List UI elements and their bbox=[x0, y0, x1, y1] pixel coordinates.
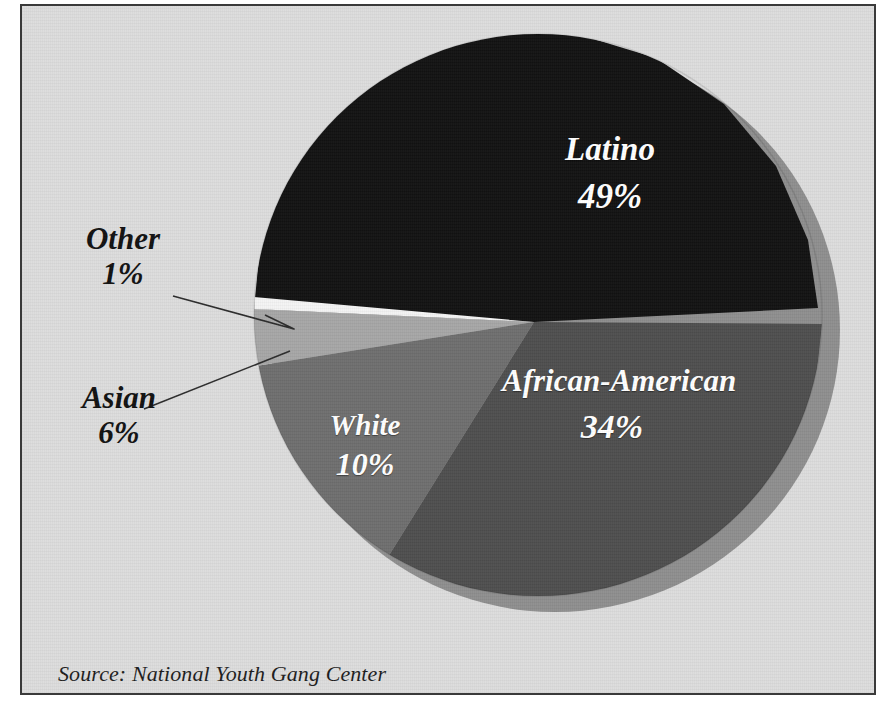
pie-label-asian: Asian 6% bbox=[44, 381, 194, 450]
pie-chart-figure: Other 1% Asian 6% Latino 49% African-Ame… bbox=[0, 0, 886, 720]
pie-label-african-american-value: 34% bbox=[502, 409, 722, 446]
pie-label-other: Other 1% bbox=[48, 222, 198, 291]
pie-label-african-american: African-American 34% bbox=[502, 364, 722, 446]
pie-label-african-american-name: African-American bbox=[502, 363, 736, 398]
pie-label-asian-value: 6% bbox=[44, 416, 194, 449]
source-note: Source: National Youth Gang Center bbox=[58, 661, 386, 687]
pie-label-other-name: Other bbox=[86, 221, 160, 256]
pie-label-latino-value: 49% bbox=[515, 178, 705, 216]
pie-label-white: White 10% bbox=[297, 410, 433, 482]
figure-panel: Other 1% Asian 6% Latino 49% African-Ame… bbox=[20, 4, 876, 695]
pie-label-latino: Latino 49% bbox=[515, 132, 705, 215]
pie-label-other-value: 1% bbox=[48, 257, 198, 290]
pie-label-latino-name: Latino bbox=[565, 131, 655, 167]
pie-chart-graphic bbox=[22, 6, 876, 695]
pie-label-white-name: White bbox=[330, 409, 401, 441]
pie-label-white-value: 10% bbox=[297, 447, 433, 482]
pie-label-asian-name: Asian bbox=[82, 380, 156, 415]
